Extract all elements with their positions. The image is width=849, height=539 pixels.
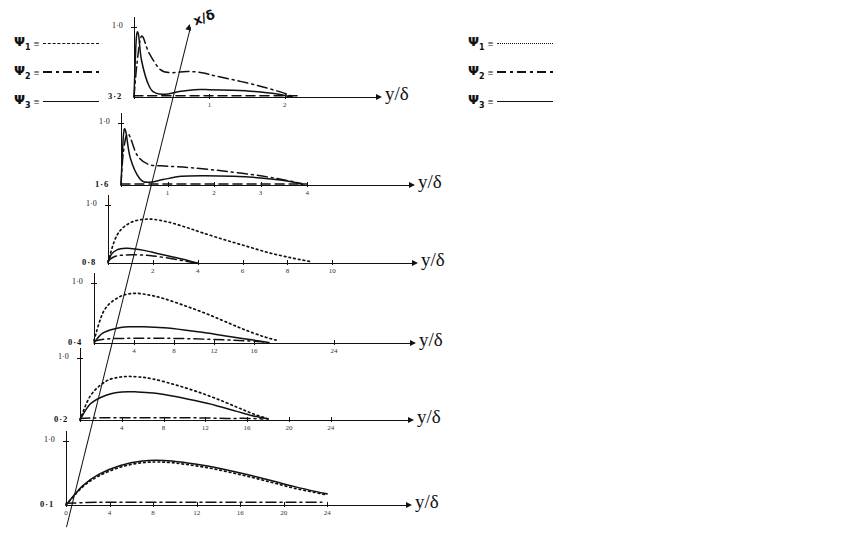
curve-psi-2: [66, 502, 322, 503]
curve-group-right-6: [425, 0, 849, 539]
panel-column-right: 1·03·212y/δ1·01·612y/δ1·00·812y/δ1·00·41…: [425, 0, 849, 539]
curve-psi-1: [66, 462, 327, 505]
panel-right-6: 1·00·1123456y/δ: [425, 0, 849, 539]
panel-column-left: 1·03·212y/δ1·01·61234y/δ1·00·8246810y/δ1…: [0, 0, 424, 539]
curve-psi-3: [66, 460, 327, 505]
figure-root: Ψ1≡Ψ2≡Ψ3≡ Ψ1≡Ψ2≡Ψ3≡ 1·03·212y/δ1·01·6123…: [0, 0, 849, 539]
